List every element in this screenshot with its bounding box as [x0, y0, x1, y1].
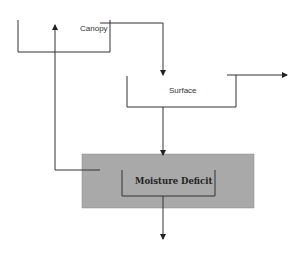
canopy-label: Canopy — [80, 24, 108, 33]
diagram-canvas — [0, 0, 308, 257]
moisture-deficit-label: Moisture Deficit — [135, 176, 212, 186]
surface-label: Surface — [169, 86, 197, 95]
deficit-to-canopy-arrow — [55, 25, 100, 170]
canopy-to-surface-arrow — [100, 23, 163, 75]
